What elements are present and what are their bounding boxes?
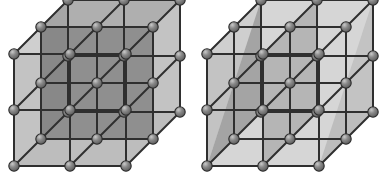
lattice-atom — [285, 134, 295, 144]
lattice-atom — [368, 0, 378, 5]
lattice-atom — [341, 22, 351, 32]
lattice-atom — [258, 49, 268, 59]
lattice-atom — [9, 105, 19, 115]
lattice-atom — [341, 78, 351, 88]
lattice-atom — [368, 107, 378, 117]
lattice-atom — [65, 49, 75, 59]
lattice-atom — [92, 22, 102, 32]
lattice-atom — [368, 51, 378, 61]
lattice-atom — [202, 49, 212, 59]
lattice-atom — [229, 134, 239, 144]
lattice-atom — [229, 22, 239, 32]
lattice-atom — [9, 161, 19, 171]
lattice-atom — [175, 51, 185, 61]
lattice-atom — [312, 0, 322, 5]
lattice-atom — [285, 22, 295, 32]
lattice-atom — [148, 78, 158, 88]
lattice-atom — [202, 161, 212, 171]
lattice-atom — [256, 0, 266, 5]
lattice-atom — [65, 161, 75, 171]
lattice-atom — [175, 107, 185, 117]
lattice-atom — [314, 49, 324, 59]
lattice-atom — [36, 22, 46, 32]
lattice-atom — [314, 105, 324, 115]
lattice-atom — [121, 49, 131, 59]
lattice-atom — [285, 78, 295, 88]
lattice-atom — [121, 161, 131, 171]
lattice-atom — [63, 0, 73, 5]
lattice-atom — [92, 78, 102, 88]
left-cube-panel — [0, 0, 193, 176]
lattice-atom — [258, 161, 268, 171]
lattice-atom — [65, 105, 75, 115]
lattice-atom — [121, 105, 131, 115]
lattice-atom — [119, 0, 129, 5]
lattice-atom — [36, 78, 46, 88]
lattice-atom — [229, 78, 239, 88]
lattice-atom — [148, 22, 158, 32]
right-cube-panel — [193, 0, 387, 176]
lattice-atom — [92, 134, 102, 144]
lattice-atom — [202, 105, 212, 115]
lattice-atom — [175, 0, 185, 5]
lattice-atom — [148, 134, 158, 144]
lattice-atom — [314, 161, 324, 171]
lattice-figure — [0, 0, 387, 176]
lattice-atom — [341, 134, 351, 144]
lattice-atom — [258, 105, 268, 115]
lattice-atom — [9, 49, 19, 59]
lattice-atom — [36, 134, 46, 144]
